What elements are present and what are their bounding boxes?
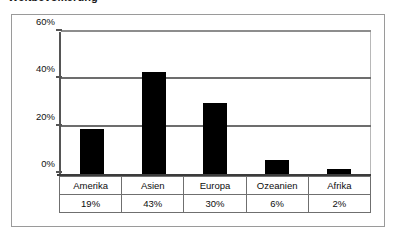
bar-europa	[203, 103, 227, 174]
y-axis-label-60: 60%	[36, 16, 55, 27]
table-cell-value-amerika: 19%	[60, 195, 122, 213]
bar-slot-ozeanien	[246, 32, 308, 174]
table-cell-value-asien: 43%	[122, 195, 184, 213]
bar-ozeanien	[265, 160, 289, 174]
y-axis-tick-60	[56, 29, 62, 31]
table-cell-value-afrika: 2%	[308, 195, 370, 213]
plot-right-border	[370, 32, 371, 174]
table-cell-value-ozeanien: 6%	[246, 195, 308, 213]
bar-slot-afrika	[308, 32, 370, 174]
table-cell-category-ozeanien: Ozeanien	[246, 177, 308, 195]
table-cell-category-afrika: Afrika	[308, 177, 370, 195]
table-cell-category-europa: Europa	[184, 177, 246, 195]
y-axis-label-40: 40%	[36, 63, 55, 74]
plot-area: 0%20%40%60%	[59, 32, 371, 174]
bars-group	[61, 32, 370, 174]
table-row-categories: AmerikaAsienEuropaOzeanienAfrika	[60, 177, 371, 195]
bar-asien	[142, 72, 166, 174]
page-title: Weltbevölkerung	[8, 0, 98, 3]
bar-slot-asien	[123, 32, 185, 174]
y-axis-label-0: 0%	[41, 158, 55, 169]
bar-slot-amerika	[61, 32, 123, 174]
table-row-values: 19%43%30%6%2%	[60, 195, 371, 213]
table-cell-value-europa: 30%	[184, 195, 246, 213]
y-axis-label-20: 20%	[36, 110, 55, 121]
bar-slot-europa	[185, 32, 247, 174]
table-cell-category-amerika: Amerika	[60, 177, 122, 195]
chart-figure-frame: 0%20%40%60% AmerikaAsienEuropaOzeanienAf…	[11, 14, 385, 227]
table-cell-category-asien: Asien	[122, 177, 184, 195]
data-table: AmerikaAsienEuropaOzeanienAfrika 19%43%3…	[59, 176, 371, 213]
bar-amerika	[80, 129, 104, 174]
